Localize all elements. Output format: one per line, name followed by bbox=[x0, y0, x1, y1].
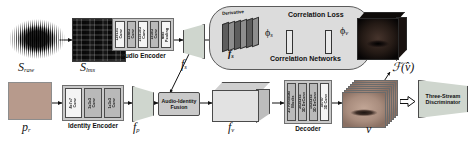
figure-canvas: Sraw Slms 12x1x1 Conv 1x4x3 Conv 1x3x3x3… bbox=[0, 0, 472, 143]
fv-label: fv bbox=[228, 120, 234, 135]
identity-encoder-block-2: 1x3x3 Conv bbox=[104, 88, 121, 118]
F-vhat-label: ℱ(v̂) bbox=[392, 60, 414, 75]
raw-audio-waveform bbox=[8, 18, 66, 60]
vhat-label: v bbox=[366, 122, 472, 137]
correlation-networks-label: Correlation Networks bbox=[270, 55, 341, 62]
lms-label: Slms bbox=[80, 60, 95, 75]
identity-encoder-block-0: 4x7x7 Conv bbox=[65, 88, 82, 118]
decoder-block-0: 3D Residual Blocks bbox=[287, 83, 296, 121]
decoder-box[interactable]: 3D Residual Blocks 3x3x3x3 3D DeConv 1x3… bbox=[284, 80, 332, 124]
audio-encoder-block-3: 1x3x3 Conv bbox=[150, 21, 160, 48]
correlation-loss-label: Correlation Loss bbox=[288, 11, 344, 18]
identity-encoder-label: Identity Encoder bbox=[58, 122, 128, 129]
fusion-label: Audio-Identity Fusion bbox=[162, 98, 197, 110]
phi-audio-label: ϕs bbox=[265, 27, 273, 38]
audio-encoder-block-2: 1x3x3x3 Conv bbox=[138, 21, 148, 48]
fs-label: fs bbox=[181, 57, 187, 72]
audio-encoder-block-1: 1x4x3 Conv bbox=[127, 21, 137, 48]
reference-portrait bbox=[8, 82, 52, 120]
identity-label: pr bbox=[22, 120, 31, 135]
audio-encoder-box[interactable]: 12x1x1 Conv 1x4x3 Conv 1x3x3x3 Conv 1x3x… bbox=[112, 18, 174, 51]
phi-audio-embedding-bar bbox=[286, 30, 293, 54]
identity-encoder-block-1: 3x3x3 Conv bbox=[84, 88, 101, 118]
identity-projection-trapezoid bbox=[132, 86, 154, 122]
fs-derivative-label: fs bbox=[228, 48, 234, 59]
fp-label: fp bbox=[133, 120, 140, 135]
three-stream-discriminator[interactable]: Three-Stream Discriminator bbox=[418, 80, 468, 118]
decoder-block-2: 1x3x3x3 3D DeConv bbox=[309, 83, 318, 121]
audio-encoder-block-0: 12x1x1 Conv bbox=[115, 21, 125, 48]
derivative-slice-stack bbox=[222, 18, 266, 52]
decoder-label: Decoder bbox=[284, 125, 332, 132]
hollow-arrow-to-discriminator bbox=[400, 96, 416, 108]
raw-audio-label: Sraw bbox=[18, 60, 34, 75]
decoder-block-3: 5x7x7 3D Conv bbox=[320, 83, 329, 121]
identity-encoder-box[interactable]: 4x7x7 Conv 3x3x3 Conv 1x3x3 Conv bbox=[62, 85, 124, 121]
audio-projection-trapezoid bbox=[183, 24, 205, 59]
audio-encoder-block-4: Max Pooling bbox=[161, 21, 171, 48]
audio-identity-fusion-box[interactable]: Audio-Identity Fusion bbox=[158, 92, 200, 116]
video-feature-cube bbox=[357, 12, 409, 64]
phi-video-embedding-bar bbox=[325, 30, 332, 54]
fused-feature-cube bbox=[212, 82, 272, 124]
discriminator-label: Three-Stream Discriminator bbox=[426, 93, 461, 105]
generated-frame-stack bbox=[342, 80, 400, 126]
decoder-block-1: 3x3x3x3 3D DeConv bbox=[298, 83, 307, 121]
phi-video-label: ϕv bbox=[340, 25, 348, 36]
audio-encoder-label: Audio Encoder bbox=[112, 52, 174, 59]
